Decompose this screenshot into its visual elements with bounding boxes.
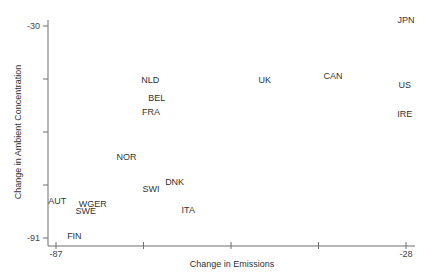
point-label-ire: IRE [397, 109, 412, 119]
x-axis-title: Change in Emissions [190, 259, 275, 269]
point-label-uk: UK [259, 75, 272, 85]
x-axis: -87-28 Change in Emissions [48, 242, 415, 269]
point-label-can: CAN [324, 71, 343, 81]
point-label-bel: BEL [148, 93, 165, 103]
point-labels: JPNNLDUKCANUSBELFRAIRENORDNKSWIAUTWGERSW… [48, 15, 414, 241]
y-axis: -30-91 Change in Ambient Concentration [13, 20, 48, 246]
point-label-swi: SWI [142, 184, 159, 194]
point-label-fin: FIN [67, 231, 82, 241]
x-tick-label: -28 [399, 249, 412, 259]
x-ticks: -87-28 [49, 242, 412, 259]
point-label-swe: SWE [75, 206, 96, 216]
y-tick-label: -30 [27, 21, 40, 31]
y-axis-title: Change in Ambient Concentration [13, 65, 23, 200]
point-label-nld: NLD [141, 75, 160, 85]
y-ticks: -30-91 [27, 21, 48, 243]
point-label-ita: ITA [182, 205, 195, 215]
y-tick-label: -91 [27, 233, 40, 243]
point-label-nor: NOR [117, 152, 138, 162]
point-label-fra: FRA [142, 107, 160, 117]
point-label-dnk: DNK [165, 177, 184, 187]
scatter-chart: -30-91 Change in Ambient Concentration -… [0, 0, 426, 280]
point-label-jpn: JPN [397, 15, 414, 25]
point-label-aut: AUT [48, 196, 67, 206]
point-label-us: US [399, 80, 412, 90]
x-tick-label: -87 [49, 249, 62, 259]
